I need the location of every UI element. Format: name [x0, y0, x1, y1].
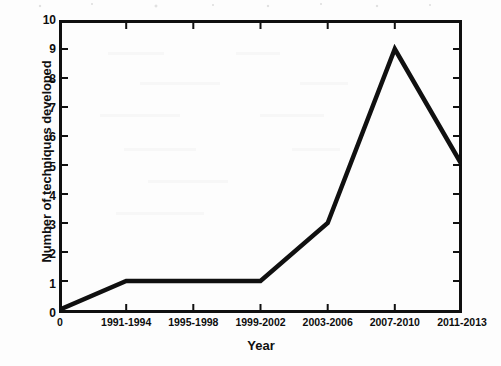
y-tick-marks	[61, 49, 68, 281]
x-tick-label: 2007-2010	[370, 316, 420, 328]
line-chart-svg	[59, 20, 462, 313]
y-axis-tick-labels: 10 9 8 7 6 5 4 3 2 1 0	[22, 20, 56, 313]
x-tick-label: 1995-1998	[168, 316, 218, 328]
x-tick-label: 2003-2006	[303, 316, 353, 328]
chart-page: Number of techniques developed 10 9 8 7 …	[0, 0, 501, 366]
y-tick-label: 5	[26, 160, 56, 174]
scan-artifact-top	[0, 0, 501, 16]
y-tick-label: 9	[26, 42, 56, 56]
x-tick-marks	[126, 304, 395, 311]
y-tick-label: 6	[26, 130, 56, 144]
y-tick-marks-right	[453, 49, 460, 281]
axis-box	[61, 22, 461, 312]
y-tick-label: 1	[26, 277, 56, 291]
x-tick-label: 2011-2013	[437, 316, 487, 328]
x-axis-tick-labels: 0 1991-1994 1995-1998 1999-2002 2003-200…	[0, 316, 501, 334]
y-tick-label: 10	[26, 13, 56, 27]
y-tick-label: 4	[26, 189, 56, 203]
x-tick-label: 0	[57, 316, 63, 328]
y-tick-label: 2	[26, 247, 56, 261]
x-axis-title: Year	[59, 338, 463, 353]
x-tick-label: 1999-2002	[235, 316, 285, 328]
y-tick-label: 3	[26, 218, 56, 232]
x-tick-label: 1991-1994	[101, 316, 151, 328]
y-tick-label: 7	[26, 101, 56, 115]
data-line-series	[59, 49, 462, 310]
y-tick-label: 8	[26, 72, 56, 86]
x-tick-marks-top	[126, 22, 395, 29]
plot-area	[59, 20, 462, 313]
